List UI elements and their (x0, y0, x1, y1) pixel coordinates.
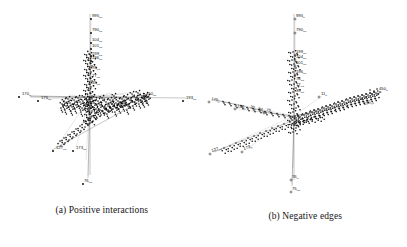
node-label: 39out (92, 80, 100, 85)
panel-positive-interactions: 995out 790out 104out 101out 199out 196ou… (0, 0, 204, 247)
node-label: 193out (363, 99, 374, 107)
node-label: 127out (56, 145, 67, 150)
node-label: 995out (92, 13, 103, 18)
plot-negative-edges: 995in 790out 199out 104out 101out 196out… (204, 0, 407, 196)
node-label: 995in (296, 13, 306, 18)
node-label: 77out (92, 73, 100, 78)
figure-container: 995out 790out 104out 101out 199out 196ou… (0, 0, 407, 247)
node-label: 75out (292, 186, 300, 191)
node-label: 790out (296, 27, 307, 32)
node-label: 104out (92, 37, 103, 42)
scatter-svg-b: 995in 790out 199out 104out 101out 196out… (204, 0, 407, 196)
node-label: 104out (296, 54, 307, 59)
node-labels-b: 995in 790out 199out 104out 101out 196out… (210, 13, 388, 191)
scatter-svg-a: 995out 790out 104out 101out 199out 196ou… (0, 0, 204, 196)
node-label: 39out (296, 88, 304, 93)
node-label: 170in (210, 96, 220, 103)
node-label: 78out (92, 65, 100, 70)
node-label: 127out (210, 145, 222, 153)
node-label: 175out (41, 95, 52, 100)
node-label: 77out (296, 82, 304, 87)
axis-lines-a (30, 14, 186, 178)
node-label: 101out (92, 43, 103, 48)
node-label: 173in (242, 143, 253, 151)
node-label: 78out (296, 76, 304, 81)
node-label: 193out (186, 95, 197, 100)
node-label: 20in (249, 104, 257, 111)
panel-caption-b: (b) Negative edges (204, 211, 407, 221)
diagonal-band-b (221, 115, 325, 154)
plot-positive-interactions: 995out 790out 104out 101out 199out 196ou… (0, 0, 204, 196)
node-labels-a: 995out 790out 104out 101out 199out 196ou… (22, 13, 197, 183)
node-label: 450out (146, 91, 157, 96)
panel-negative-edges: 995in 790out 199out 104out 101out 196out… (204, 0, 407, 247)
panel-caption-a: (a) Positive interactions (0, 205, 204, 215)
node-label: 173out (76, 145, 87, 150)
node-label: 790out (92, 27, 103, 32)
node-label: 11in (321, 91, 328, 96)
node-label: 101out (296, 60, 307, 65)
node-label: 170in (22, 91, 32, 96)
node-label: 196out (296, 69, 307, 74)
node-label: 76out (84, 178, 92, 183)
node-label: 450in (379, 86, 389, 91)
node-label: 76in (292, 174, 299, 179)
